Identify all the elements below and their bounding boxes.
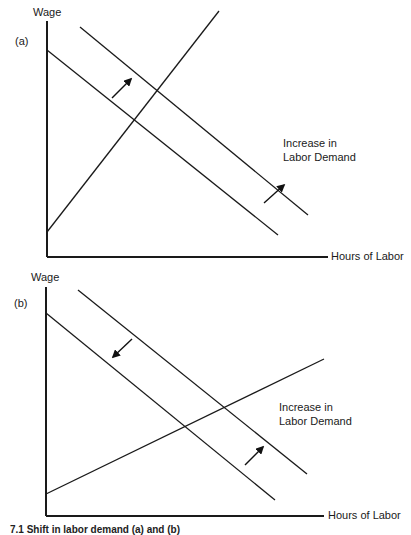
panel-a-x-axis-label: Hours of Labor <box>331 250 404 262</box>
panel-b-annotation-line2: Labor Demand <box>279 414 352 428</box>
panel-b-shift-arrow-icon <box>113 339 132 357</box>
panel-a-demand-shifted-line <box>80 27 308 215</box>
panel-a-shift-arrow-icon <box>112 79 131 98</box>
labor-market-diagram <box>0 0 411 535</box>
panel-b-annotation-line1: Increase in <box>279 400 352 414</box>
panel-a-label: (a) <box>15 35 28 47</box>
panel-a-graph <box>47 11 328 257</box>
panel-a-annotation: Increase in Labor Demand <box>283 136 356 164</box>
panel-a-supply-line <box>47 11 219 232</box>
panel-a-annotation-line2: Labor Demand <box>283 150 356 164</box>
panel-b-label: (b) <box>14 297 27 309</box>
panel-a-annotation-line1: Increase in <box>283 136 356 150</box>
panel-b-y-axis-label: Wage <box>31 271 59 283</box>
panel-a-y-axis-label: Wage <box>33 6 61 18</box>
figure-caption: 7.1 Shift in labor demand (a) and (b) <box>10 524 180 535</box>
panel-b-x-axis-label: Hours of Labor <box>328 509 401 521</box>
panel-b-shift-arrow-icon <box>245 447 263 465</box>
panel-b-demand-original-line <box>46 313 275 500</box>
panel-a-demand-original-line <box>47 50 278 235</box>
panel-b-annotation: Increase in Labor Demand <box>279 400 352 428</box>
panel-b-demand-shifted-line <box>78 290 307 474</box>
